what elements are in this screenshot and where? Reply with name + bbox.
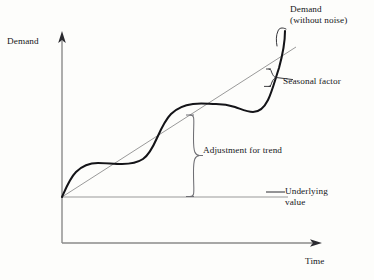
demand-curve-label: Demand (without noise) [290, 4, 347, 25]
y-axis-label: Demand [7, 36, 39, 47]
trend-line [62, 47, 296, 197]
axis-group [58, 31, 322, 247]
adjustment-for-trend-label: Adjustment for trend [203, 145, 282, 156]
underlying-value-label: Underlying value [285, 186, 328, 207]
underlying-value-label-line1: Underlying [285, 186, 328, 196]
demand-forecast-diagram: Demand Time Demand (without noise) Seaso… [0, 0, 374, 280]
underlying-value-label-line2: value [285, 197, 328, 208]
demand-curve-label-line2: (without noise) [290, 15, 347, 26]
x-axis-label: Time [305, 256, 324, 267]
diagram-canvas [0, 0, 374, 280]
seasonal-factor-label: Seasonal factor [283, 76, 341, 87]
adjustment-for-trend-brace [186, 115, 203, 197]
demand-curve-label-line1: Demand [290, 4, 322, 14]
demand-curve [62, 31, 285, 197]
